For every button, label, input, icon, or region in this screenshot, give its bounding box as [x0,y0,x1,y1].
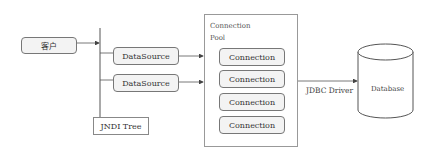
pool-title: Connection Pool [210,20,250,44]
datasource-box-2: DataSource [113,74,179,92]
datasource-label: DataSource [122,52,170,61]
connection-box-3: Connection [219,93,285,111]
jdbc-driver-label: JDBC Driver [306,86,353,95]
jndi-tree-label: JNDI Tree [101,122,142,131]
jndi-tree-box: JNDI Tree [93,117,149,135]
client-box: 客户 [21,37,77,54]
datasource-box-1: DataSource [113,47,179,65]
connection-box-2: Connection [219,70,285,88]
connection-box-1: Connection [219,48,285,66]
database-cylinder [358,44,413,118]
datasource-label: DataSource [122,79,170,88]
database-label: Database [371,85,404,93]
client-label: 客户 [41,40,57,51]
connection-box-4: Connection [219,116,285,134]
